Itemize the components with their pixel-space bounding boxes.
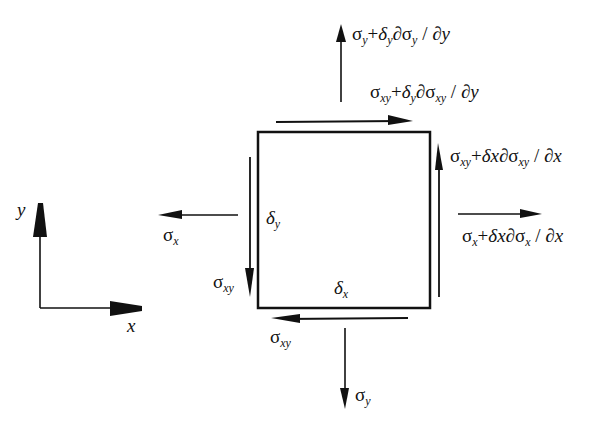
top-normal-stress-arrow: [336, 24, 346, 102]
label-x-axis: x: [127, 316, 135, 335]
y-axis-arrowhead: [33, 203, 47, 237]
label-right-normal-stress: σx+δx∂σx / ∂x: [462, 226, 563, 248]
bottom-shear-stress-arrow: [271, 314, 408, 323]
left-shear-stress-arrow: [245, 157, 254, 297]
label-element-height: δy: [266, 208, 280, 230]
right-shear-stress-arrow: [435, 143, 443, 297]
left-normal-stress-arrow: [158, 210, 238, 219]
label-bottom-shear-stress: σxy: [270, 327, 291, 349]
label-top-normal-stress: σy+δy∂σy / ∂y: [352, 24, 450, 46]
label-right-shear-stress: σxy+δx∂σxy / ∂x: [450, 146, 562, 168]
stress-element-diagram: σy+δy∂σy / ∂y σxy+δy∂σxy / ∂y σxy+δx∂σxy…: [0, 0, 595, 434]
right-normal-stress-arrow: [458, 209, 542, 218]
diagram-graphics: [0, 0, 595, 434]
bottom-normal-stress-arrow: [340, 328, 349, 409]
label-left-normal-stress: σx: [163, 225, 179, 247]
label-left-shear-stress: σxy: [213, 272, 234, 294]
label-bottom-normal-stress: σy: [355, 385, 371, 407]
top-shear-stress-arrow: [276, 115, 413, 125]
label-y-axis: y: [17, 200, 25, 219]
label-top-shear-stress: σxy+δy∂σxy / ∂y: [370, 82, 479, 104]
x-axis-arrowhead: [110, 301, 142, 316]
label-element-width: δx: [334, 278, 348, 300]
coordinate-axes: [33, 203, 142, 316]
